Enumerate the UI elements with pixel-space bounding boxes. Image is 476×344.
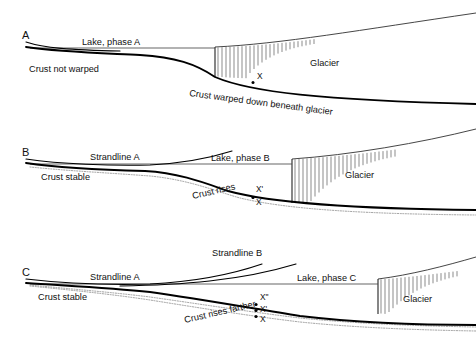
marker-label-x-a: X (257, 71, 263, 81)
label-crust-left-c: Crust stable (38, 292, 87, 302)
glacier-surface-a (215, 13, 476, 47)
glacier-body-b (292, 143, 476, 203)
marker-dot-x-a (252, 81, 255, 84)
marker-label-xprime-b: X' (256, 184, 264, 194)
marker-label-xprime-c: X' (260, 304, 268, 314)
label-crust-right-a: Crust warped down beneath glacier (189, 88, 334, 115)
label-lake-c: Lake, phase C (297, 273, 357, 283)
label-glacier-a: Glacier (310, 58, 339, 68)
label-strandline-a-b: Strandline A (90, 152, 140, 162)
strandline-b-c (120, 264, 296, 286)
marker-dot-x-b (251, 196, 254, 199)
label-crust-left-b: Crust stable (41, 172, 90, 182)
label-crust-left-a: Crust not warped (29, 64, 99, 74)
label-glacier-c: Glacier (403, 294, 432, 304)
label-crust-right-b: Crust rises (191, 181, 236, 201)
panel-letter-a: A (22, 29, 30, 41)
panel-letter-b: B (22, 146, 29, 158)
marker-dot-x-c (254, 315, 257, 318)
marker-label-x-b: X (256, 197, 262, 207)
panel-b: X' X B Strandline A Lake, phase B Crust … (0, 115, 476, 230)
marker-label-xdprime-c: X" (260, 292, 269, 302)
label-strandline-b-c: Strandline B (212, 248, 262, 258)
label-lake-a: Lake, phase A (82, 37, 141, 47)
label-glacier-b: Glacier (345, 170, 374, 180)
panel-a: X A Lake, phase A Crust not warped Crust… (0, 0, 476, 115)
marker-label-x-c: X (260, 314, 266, 324)
panel-c: X" X' X C Strandline B Strandline A Lake… (0, 230, 476, 344)
panel-letter-c: C (22, 266, 30, 278)
strandline-a-c (26, 264, 262, 284)
glacier-surface-c (378, 257, 476, 279)
former-crust-b (30, 167, 476, 215)
label-lake-b: Lake, phase B (211, 153, 270, 163)
figure-glacial-isostasy: X A Lake, phase A Crust not warped Crust… (0, 0, 476, 344)
marker-dot-xprime-c (254, 309, 257, 312)
label-strandline-a-c: Strandline A (90, 272, 140, 282)
